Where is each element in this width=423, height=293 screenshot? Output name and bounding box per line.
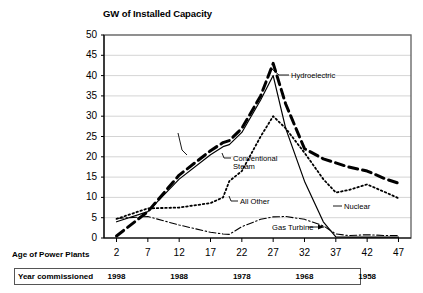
chart-container: GW of Installed Capacity 504540353025201… — [0, 0, 423, 293]
year-value-1978: 1978 — [227, 272, 257, 281]
annotation-nuclear: Nuclear — [344, 203, 370, 211]
annotation-all-other: All Other — [240, 198, 270, 206]
y-tick-50: 50 — [73, 30, 97, 40]
annotation-conventional-steam: Conventional Steam — [233, 155, 277, 172]
year-value-1958: 1958 — [352, 272, 382, 281]
x-tick-47: 47 — [387, 248, 409, 258]
leader-conventional-steam — [222, 153, 231, 158]
y-tick-45: 45 — [73, 50, 97, 60]
x-tick-7: 7 — [137, 248, 159, 258]
leader-all-other — [229, 196, 238, 201]
x-axis-row-label-year: Year commissioned — [18, 272, 93, 281]
series-line-3 — [117, 216, 399, 235]
y-tick-35: 35 — [73, 91, 97, 101]
x-tick-37: 37 — [325, 248, 347, 258]
y-tick-25: 25 — [73, 132, 97, 142]
x-tick-12: 12 — [168, 248, 190, 258]
x-tick-27: 27 — [262, 248, 284, 258]
year-value-1988: 1988 — [164, 272, 194, 281]
y-tick-5: 5 — [73, 213, 97, 223]
annotation-gas-turbine: Gas Turbine — [272, 224, 313, 232]
year-value-1998: 1998 — [102, 272, 132, 281]
annotation-hydroelectric: Hydroelectric — [291, 72, 335, 80]
y-tick-10: 10 — [73, 192, 97, 202]
y-tick-30: 30 — [73, 111, 97, 121]
y-tick-40: 40 — [73, 71, 97, 81]
y-tick-20: 20 — [73, 152, 97, 162]
x-tick-42: 42 — [356, 248, 378, 258]
x-tick-22: 22 — [231, 248, 253, 258]
x-tick-2: 2 — [106, 248, 128, 258]
year-value-1968: 1968 — [289, 272, 319, 281]
x-tick-32: 32 — [293, 248, 315, 258]
x-tick-17: 17 — [200, 248, 222, 258]
y-tick-0: 0 — [73, 233, 97, 243]
x-axis-row-label-age: Age of Power Plants — [12, 250, 89, 259]
y-tick-15: 15 — [73, 172, 97, 182]
